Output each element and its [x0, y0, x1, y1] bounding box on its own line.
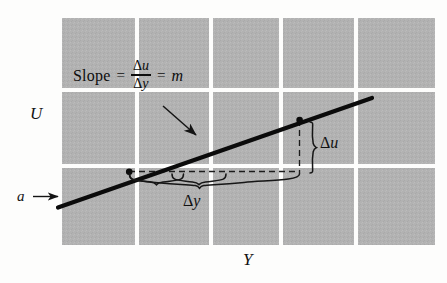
fraction-numerator: Δu: [131, 59, 151, 73]
equals-sign-1: =: [115, 67, 125, 84]
intercept-label: a: [17, 188, 25, 205]
numerator-variable: u: [142, 58, 149, 73]
run-delta-symbol: Δ: [183, 192, 193, 209]
run-variable: y: [193, 192, 200, 209]
run-label: Δy: [183, 192, 200, 210]
x-axis-label: Y: [243, 250, 253, 270]
figure-canvas: U Y a Δu Δy Slope = Δu Δy = m: [0, 0, 447, 283]
slope-word: Slope: [73, 67, 110, 85]
slope-formula: Slope = Δu Δy = m: [73, 60, 183, 92]
grid-blocks: [62, 18, 435, 245]
denominator-delta-symbol: Δ: [133, 76, 142, 91]
slope-diagram-svg: [0, 0, 447, 283]
y-axis-label: U: [30, 104, 42, 124]
equals-sign-2: =: [156, 67, 166, 84]
denominator-variable: y: [142, 76, 148, 91]
numerator-delta-symbol: Δ: [133, 58, 142, 73]
rise-label: Δu: [320, 134, 338, 152]
slope-symbol: m: [171, 67, 183, 85]
fraction-denominator: Δy: [131, 77, 150, 91]
rise-variable: u: [330, 134, 338, 151]
slope-fraction: Δu Δy: [131, 59, 151, 91]
rise-delta-symbol: Δ: [320, 134, 330, 151]
